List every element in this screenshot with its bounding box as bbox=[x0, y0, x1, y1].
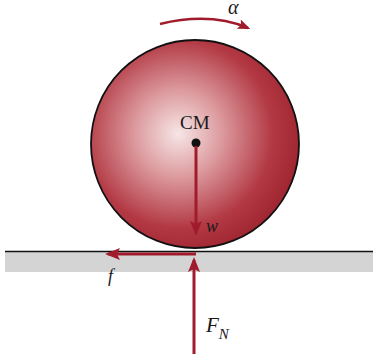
weight-label: w bbox=[206, 216, 218, 236]
normal-force-subscript: N bbox=[218, 326, 230, 342]
rolling-sphere-diagram: α CM w f FN bbox=[0, 0, 380, 364]
normal-force-label: FN bbox=[205, 313, 230, 342]
cm-label: CM bbox=[180, 112, 210, 133]
angular-acceleration-arrow bbox=[160, 19, 248, 28]
alpha-label: α bbox=[228, 0, 239, 18]
normal-force-main: F bbox=[205, 313, 219, 337]
